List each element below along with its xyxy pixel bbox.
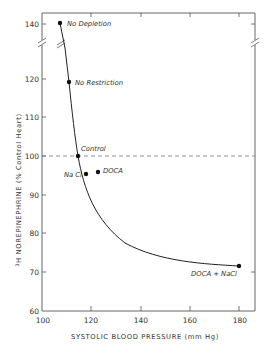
chart-canvas: 60 70 80 90 100 110 120 140 100 120 140 … xyxy=(0,0,268,353)
y-tick-110: 110 xyxy=(25,113,40,122)
y-tick-100: 100 xyxy=(25,152,40,161)
axis-break-marks xyxy=(38,38,259,48)
y-axis-title: 3H NOREPINEPHRINE (% Control Heart) xyxy=(14,113,23,266)
x-tick-160: 160 xyxy=(183,316,198,325)
y-tick-90: 90 xyxy=(29,191,39,200)
x-tick-180: 180 xyxy=(233,316,248,325)
point-doca-nacl xyxy=(237,264,241,268)
x-axis-title: SYSTOLIC BLOOD PRESSURE (mm Hg) xyxy=(71,333,219,341)
point-no-depletion xyxy=(58,21,62,25)
x-tick-100: 100 xyxy=(36,316,51,325)
plot-frame xyxy=(42,13,255,311)
label-no-restriction: No Restriction xyxy=(75,79,123,87)
svg-text:3H NOREPINEPHRINE (% Control H: 3H NOREPINEPHRINE (% Control Heart) xyxy=(14,113,23,266)
point-nacl xyxy=(84,172,88,176)
y-tick-60: 60 xyxy=(29,307,39,316)
point-doca xyxy=(96,170,100,174)
y-ticks xyxy=(42,24,255,272)
label-nacl: Na Cl xyxy=(64,171,82,179)
label-doca: DOCA xyxy=(103,167,123,175)
y-tick-70: 70 xyxy=(29,268,39,277)
y-tick-120: 120 xyxy=(25,75,40,84)
y-axis-title-text: H NOREPINEPHRINE (% Control Heart) xyxy=(15,113,23,263)
x-tick-120: 120 xyxy=(84,316,99,325)
label-no-depletion: No Depletion xyxy=(67,20,111,28)
x-tick-140: 140 xyxy=(134,316,149,325)
point-control xyxy=(76,154,80,158)
label-doca-nacl: DOCA + NaCl xyxy=(191,270,237,278)
point-no-restriction xyxy=(67,80,71,84)
y-tick-80: 80 xyxy=(29,229,39,238)
point-labels: No Depletion No Restriction Control Na C… xyxy=(64,20,237,278)
x-ticks xyxy=(91,13,239,311)
label-control: Control xyxy=(81,145,106,153)
y-tick-labels: 60 70 80 90 100 110 120 140 xyxy=(25,20,40,316)
x-tick-labels: 100 120 140 160 180 xyxy=(36,316,248,325)
y-tick-140: 140 xyxy=(25,20,40,29)
